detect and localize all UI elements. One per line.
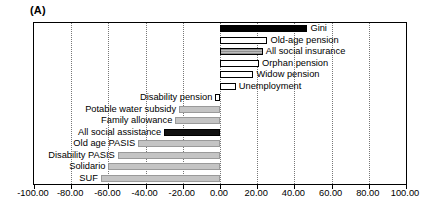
bar-category-label: Widow pension (256, 69, 319, 81)
bar-row: Solidario (34, 161, 406, 173)
x-tick-label: 40.00 (282, 188, 305, 198)
bar-row: Disability pension (34, 92, 406, 104)
bar[interactable] (101, 175, 220, 182)
bar-category-label: SUF (79, 173, 98, 185)
bar-row: Old age PASIS (34, 138, 406, 150)
bar[interactable] (220, 60, 259, 67)
bar[interactable] (175, 117, 220, 124)
x-tick-label: -20.00 (169, 188, 195, 198)
bar-category-label: Disability pension (140, 92, 212, 104)
bar-row: Unemployment (34, 81, 406, 93)
bar-row: Gini (34, 23, 406, 35)
x-tick-label: -80.00 (57, 188, 83, 198)
bar[interactable] (220, 48, 263, 55)
bar[interactable] (220, 83, 236, 90)
bar[interactable] (179, 106, 220, 113)
bar[interactable] (118, 152, 220, 159)
x-tick-label: 80.00 (356, 188, 379, 198)
bar[interactable] (164, 129, 220, 136)
bar-row: Orphan pension (34, 58, 406, 70)
bar-category-label: Disability PASIS (48, 150, 114, 162)
bar-row: Old-age pension (34, 35, 406, 47)
bar-category-label: Gini (310, 23, 327, 35)
x-tick-label: 0.00 (210, 188, 228, 198)
x-tick-label: 60.00 (319, 188, 342, 198)
panel-label: (A) (30, 4, 46, 16)
bar[interactable] (220, 25, 307, 32)
bar-category-label: All social insurance (266, 46, 346, 58)
bar-category-label: Orphan pension (262, 58, 328, 70)
bar-row: Widow pension (34, 69, 406, 81)
bar-category-label: Family allowance (101, 115, 172, 127)
bar-row: Family allowance (34, 115, 406, 127)
bar-row: Disability PASIS (34, 150, 406, 162)
bar[interactable] (108, 163, 220, 170)
bar-category-label: Solidario (69, 161, 105, 173)
x-tick-label: 20.00 (245, 188, 268, 198)
bar-row: SUF (34, 173, 406, 185)
bar-row: Potable water subsidy (34, 104, 406, 116)
bar-category-label: Old-age pension (270, 35, 338, 47)
bar[interactable] (138, 140, 220, 147)
chart-plot-area: GiniOld-age pensionAll social insuranceO… (33, 22, 407, 185)
bar-category-label: Old age PASIS (73, 138, 135, 150)
bar-row: All social assistance (34, 127, 406, 139)
bar-category-label: All social assistance (78, 127, 161, 139)
bar-category-label: Potable water subsidy (85, 104, 176, 116)
bar-row: All social insurance (34, 46, 406, 58)
bar[interactable] (215, 94, 220, 101)
x-tick-label: -60.00 (94, 188, 120, 198)
x-axis-tick-labels: -100.00-80.00-60.00-40.00-20.000.0020.00… (33, 188, 407, 204)
x-tick-label: -40.00 (131, 188, 157, 198)
x-tick-label: -100.00 (17, 188, 49, 198)
bar[interactable] (220, 71, 253, 78)
x-tick-label: 100.00 (391, 188, 419, 198)
bar-category-label: Unemployment (239, 81, 302, 93)
bar[interactable] (220, 37, 267, 44)
